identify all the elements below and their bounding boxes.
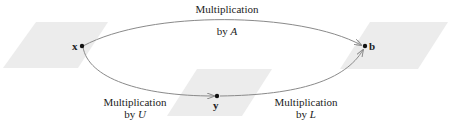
- point-y: [215, 94, 219, 98]
- plane-b: [340, 22, 448, 69]
- top-arrow-label-line1: Multiplication: [196, 3, 259, 15]
- lower-right-arrow-label-line1: Multiplication: [275, 96, 338, 108]
- point-x-label: x: [72, 40, 78, 52]
- point-b-label: b: [369, 40, 375, 52]
- lower-right-arrow-label-line2: by L: [296, 108, 316, 120]
- plane-x: [3, 22, 108, 68]
- lower-left-arrow-label-line1: Multiplication: [104, 96, 167, 108]
- top-arrow-label-line2: by A: [217, 25, 237, 37]
- point-b: [363, 44, 367, 48]
- point-y-label: y: [213, 99, 219, 111]
- point-x: [80, 44, 84, 48]
- plane-y: [167, 69, 272, 116]
- lower-left-arrow-label-line2: by U: [124, 108, 146, 120]
- factorization-diagram: [0, 0, 454, 123]
